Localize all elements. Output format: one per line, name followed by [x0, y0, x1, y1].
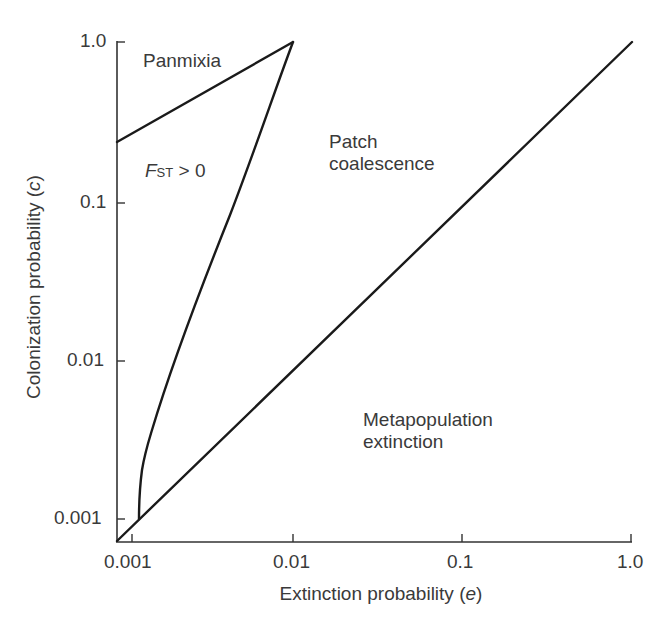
fst-label: FST > 0 — [145, 160, 205, 182]
x-tick-label-0.1: 0.1 — [447, 551, 473, 573]
fst-boundary-curve — [139, 42, 293, 519]
y-tick-label-1.0: 1.0 — [80, 30, 106, 52]
y-tick-label-0.001: 0.001 — [54, 507, 102, 529]
patch-coalescence-label: Patchcoalescence — [329, 131, 435, 175]
metapopulation-extinction-label: Metapopulationextinction — [363, 409, 493, 453]
x-axis-title: Extinction probability (e) — [280, 583, 483, 605]
chart-plot-area — [0, 0, 671, 633]
extinction-boundary-line — [117, 42, 632, 541]
panmixia-label: Panmixia — [143, 50, 221, 72]
y-tick-label-0.1: 0.1 — [80, 191, 106, 213]
y-axis-title: Colonization probability (c) — [23, 175, 45, 399]
x-tick-label-0.01: 0.01 — [273, 551, 310, 573]
y-tick-label-0.01: 0.01 — [67, 349, 104, 371]
x-tick-label-0.001: 0.001 — [104, 551, 152, 573]
x-tick-label-1.0: 1.0 — [617, 551, 643, 573]
